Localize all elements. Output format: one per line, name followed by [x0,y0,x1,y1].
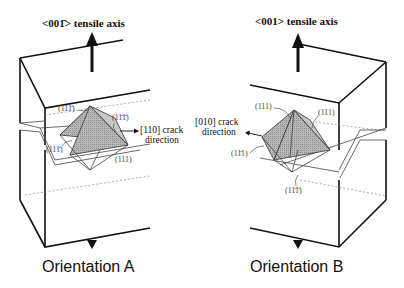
tensile-arrow-up-icon [292,33,304,72]
plane-label: (11̄1̄) [112,113,129,122]
caption-orientation-b: Orientation B [250,258,343,275]
plane-label: (111) [115,155,132,164]
plane-label: (111̄) [58,104,75,113]
crack-direction-arrow-icon [245,131,262,137]
plane-label: (111) [318,108,335,117]
crack-direction-label: [010] crack [195,117,239,127]
crack-direction-label: [110] crack [140,125,183,135]
plane-label: (111̄) [46,145,63,154]
crack-direction-arrow-icon [120,129,139,134]
tensile-arrow-up-icon [86,32,98,72]
lower-block [250,140,386,247]
plane-label: (11̄1) [231,149,248,158]
plane-label: (111) [255,102,272,111]
tensile-axis-label: <001> tensile axis [255,15,339,27]
crack-direction-label-2: direction [202,127,236,137]
tensile-arrow-down-icon [293,240,303,249]
crack-direction-label-2: direction [145,135,179,145]
tensile-axis-label: <001̄> tensile axis [42,17,126,29]
panel-orientation-b: <001> tensile axis [195,15,386,275]
plane-label: (11̄1̄) [285,186,302,195]
caption-orientation-a: Orientation A [42,258,135,275]
crack-orientation-diagram: <001̄> tensile axis [0,0,404,288]
tensile-arrow-down-icon [87,240,97,249]
panel-orientation-a: <001̄> tensile axis [20,17,183,275]
octahedron-b [262,110,330,172]
